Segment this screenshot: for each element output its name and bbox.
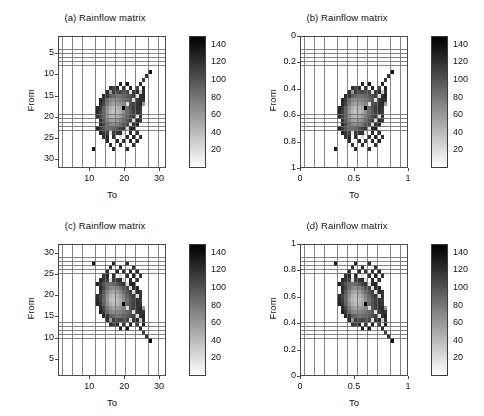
y-tick-label: 30 — [12, 247, 54, 257]
y-tick-mark — [55, 74, 58, 75]
colorbar — [189, 36, 206, 168]
y-tick-label: 15 — [12, 90, 54, 100]
colorbar-tick-label: 140 — [211, 247, 226, 257]
x-tick-label: 20 — [108, 173, 140, 183]
heatmap-canvas — [59, 245, 165, 375]
x-axis-label: To — [58, 397, 166, 408]
colorbar-tick-label: 60 — [211, 109, 221, 119]
y-tick-mark — [297, 36, 300, 37]
panel-title: (d) Rainflow matrix — [252, 220, 442, 231]
y-axis-label: From — [25, 71, 36, 131]
colorbar-gradient — [190, 245, 205, 375]
y-axis-label: From — [267, 71, 278, 131]
y-tick-mark — [297, 270, 300, 271]
y-tick-label: 20 — [12, 289, 54, 299]
colorbar-tick-label: 60 — [453, 317, 463, 327]
y-tick-label: 0.8 — [254, 136, 296, 146]
colorbar-tick-label: 120 — [453, 56, 468, 66]
y-tick-mark — [55, 117, 58, 118]
colorbar-tick-label: 100 — [211, 282, 226, 292]
heatmap-canvas — [301, 245, 407, 375]
x-tick-label: 10 — [73, 173, 105, 183]
heatmap-canvas — [301, 37, 407, 167]
figure-canvas: (a) Rainflow matrixFromTo510152025301020… — [0, 0, 484, 416]
colorbar-tick-label: 20 — [453, 144, 463, 154]
y-tick-label: 0.2 — [254, 56, 296, 66]
x-tick-mark — [300, 168, 301, 171]
panel-c: (c) Rainflow matrixFromTo510152025301020… — [0, 208, 242, 416]
x-tick-mark — [89, 168, 90, 171]
colorbar — [431, 36, 448, 168]
x-tick-mark — [159, 168, 160, 171]
x-axis-label: To — [300, 189, 408, 200]
heatmap-plot-area[interactable] — [300, 36, 408, 168]
y-tick-label: 25 — [12, 268, 54, 278]
colorbar-tick-label: 40 — [453, 127, 463, 137]
y-tick-label: 5 — [12, 353, 54, 363]
y-tick-label: 30 — [12, 153, 54, 163]
y-tick-mark — [297, 89, 300, 90]
y-tick-mark — [55, 159, 58, 160]
y-axis-label: From — [25, 279, 36, 339]
y-tick-mark — [297, 142, 300, 143]
x-tick-mark — [124, 376, 125, 379]
y-tick-mark — [55, 295, 58, 296]
y-tick-label: 25 — [12, 132, 54, 142]
panel-title: (b) Rainflow matrix — [252, 12, 442, 23]
y-tick-mark — [297, 244, 300, 245]
y-tick-mark — [55, 138, 58, 139]
colorbar-tick-label: 80 — [453, 92, 463, 102]
y-tick-mark — [55, 253, 58, 254]
x-tick-label: 1 — [392, 381, 424, 391]
x-tick-label: 0.5 — [338, 173, 370, 183]
heatmap-plot-area[interactable] — [58, 36, 166, 168]
colorbar-tick-label: 120 — [211, 264, 226, 274]
y-axis-label: From — [267, 279, 278, 339]
x-tick-label: 1 — [392, 173, 424, 183]
y-tick-label: 0.4 — [254, 83, 296, 93]
x-tick-mark — [159, 376, 160, 379]
y-tick-mark — [55, 53, 58, 54]
x-tick-label: 0.5 — [338, 381, 370, 391]
y-tick-mark — [55, 338, 58, 339]
colorbar-tick-label: 140 — [211, 39, 226, 49]
y-tick-mark — [55, 359, 58, 360]
y-tick-label: 0.8 — [254, 264, 296, 274]
x-axis-label: To — [58, 189, 166, 200]
panel-a: (a) Rainflow matrixFromTo510152025301020… — [0, 0, 242, 208]
y-tick-mark — [55, 316, 58, 317]
heatmap-plot-area[interactable] — [58, 244, 166, 376]
heatmap-canvas — [59, 37, 165, 167]
heatmap-plot-area[interactable] — [300, 244, 408, 376]
y-tick-label: 0.4 — [254, 317, 296, 327]
y-tick-label: 0.6 — [254, 109, 296, 119]
y-tick-label: 5 — [12, 47, 54, 57]
colorbar-tick-label: 80 — [211, 300, 221, 310]
x-tick-mark — [408, 376, 409, 379]
y-tick-mark — [297, 323, 300, 324]
y-tick-mark — [55, 96, 58, 97]
colorbar-tick-label: 100 — [453, 74, 468, 84]
y-tick-label: 0 — [254, 30, 296, 40]
colorbar-tick-label: 80 — [453, 300, 463, 310]
colorbar-tick-label: 100 — [211, 74, 226, 84]
colorbar-gradient — [432, 245, 447, 375]
panel-title: (a) Rainflow matrix — [10, 12, 200, 23]
colorbar-tick-label: 120 — [211, 56, 226, 66]
y-tick-label: 1 — [254, 238, 296, 248]
colorbar — [431, 244, 448, 376]
y-tick-label: 0.2 — [254, 344, 296, 354]
y-tick-mark — [297, 62, 300, 63]
colorbar-tick-label: 140 — [453, 247, 468, 257]
panel-b: (b) Rainflow matrixFromTo00.20.40.60.810… — [242, 0, 484, 208]
panel-d: (d) Rainflow matrixFromTo00.20.40.60.810… — [242, 208, 484, 416]
x-tick-label: 10 — [73, 381, 105, 391]
y-tick-label: 15 — [12, 310, 54, 320]
x-tick-mark — [300, 376, 301, 379]
colorbar-gradient — [432, 37, 447, 167]
x-tick-label: 20 — [108, 381, 140, 391]
y-tick-mark — [297, 350, 300, 351]
colorbar-tick-label: 100 — [453, 282, 468, 292]
colorbar-tick-label: 120 — [453, 264, 468, 274]
y-tick-mark — [55, 274, 58, 275]
